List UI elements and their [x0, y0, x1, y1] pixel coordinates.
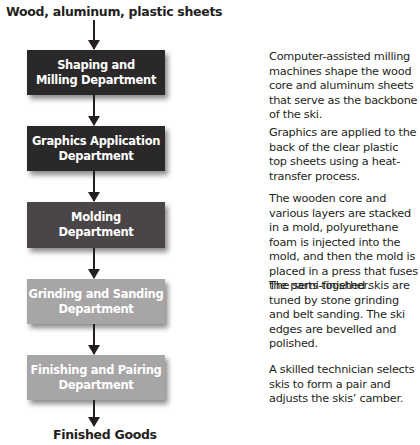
desc-shaping-milling: Computer-assisted milling machines shape… — [269, 50, 419, 123]
desc-finishing-pairing: A skilled technician selects skis to for… — [269, 363, 419, 407]
arrow-input-to-shaping — [93, 20, 95, 49]
box-label: Molding Department — [59, 210, 134, 240]
box-label: Finishing and Pairing Department — [30, 363, 161, 393]
box-grinding-sanding: Grinding and Sanding Department — [27, 279, 165, 324]
box-finishing-pairing: Finishing and Pairing Department — [27, 355, 165, 400]
output-label: Finished Goods — [53, 427, 157, 442]
input-label: Wood, aluminum, plastic sheets — [6, 4, 222, 19]
arrow-finishing-to-output — [93, 400, 95, 426]
box-molding: Molding Department — [27, 202, 165, 248]
box-label: Shaping and Milling Department — [36, 58, 156, 88]
box-graphics-application: Graphics Application Department — [27, 126, 165, 171]
arrow-grinding-to-finishing — [93, 324, 95, 354]
desc-graphics-application: Graphics are applied to the back of the … — [269, 126, 419, 184]
box-label: Grinding and Sanding Department — [29, 287, 164, 317]
arrow-graphics-to-molding — [93, 171, 95, 201]
arrow-shaping-to-graphics — [93, 95, 95, 125]
arrow-molding-to-grinding — [93, 248, 95, 278]
desc-grinding-sanding: The semi-finished skis are tuned by ston… — [269, 279, 419, 352]
box-shaping-milling: Shaping and Milling Department — [27, 50, 165, 95]
box-label: Graphics Application Department — [32, 134, 160, 164]
